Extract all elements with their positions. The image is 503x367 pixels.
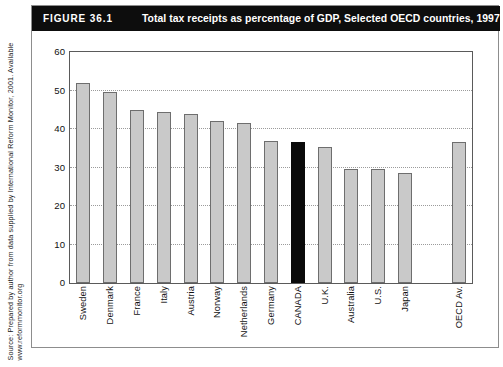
x-axis-tick: France: [131, 286, 143, 346]
x-axis-tick: Australia: [345, 286, 357, 346]
x-axis-tick: Japan: [399, 286, 411, 346]
bar-canada: [291, 142, 305, 283]
figure-container: Source: Prepared by author from data sup…: [0, 0, 503, 367]
bar-oecd-av: [452, 142, 466, 283]
x-axis-tick: Denmark: [104, 286, 116, 346]
y-axis-tick-label: 60: [35, 46, 65, 57]
y-axis-tick-label: 30: [35, 161, 65, 172]
x-axis-tick-label: Austria: [186, 286, 196, 316]
x-axis-tick-label: Italy: [159, 286, 169, 304]
bar-australia: [344, 169, 358, 283]
x-axis-tick: U.K.: [319, 286, 331, 346]
x-axis-tick-label: France: [132, 286, 142, 316]
x-axis-tick-label: Germany: [266, 286, 276, 325]
x-axis-tick: Austria: [185, 286, 197, 346]
bar-netherlands: [237, 123, 251, 283]
figure-title-bar: FIGURE 36.1 Total tax receipts as percen…: [32, 6, 500, 31]
x-axis-tick-label: Japan: [400, 286, 410, 312]
bar-france: [130, 110, 144, 283]
x-axis-tick-label: U.K.: [320, 286, 330, 304]
x-axis-tick: U.S.: [372, 286, 384, 346]
x-axis-tick: OECD Av.: [453, 286, 465, 346]
y-axis-tick-label: 10: [35, 238, 65, 249]
x-axis: SwedenDenmarkFranceItalyAustriaNorwayNet…: [70, 286, 472, 348]
y-axis-tick-label: 0: [35, 277, 65, 288]
x-axis-tick: Netherlands: [238, 286, 250, 346]
bar-u-s: [371, 169, 385, 283]
y-axis-tick-label: 50: [35, 84, 65, 95]
bar-italy: [157, 112, 171, 283]
x-axis-tick-label: Australia: [346, 286, 356, 323]
x-axis-tick-label: Netherlands: [239, 286, 249, 337]
x-axis-tick-label: CANADA: [293, 286, 303, 325]
bar-denmark: [103, 92, 117, 283]
y-axis-tick-label: 20: [35, 200, 65, 211]
bar-germany: [264, 141, 278, 283]
x-axis-tick: Norway: [211, 286, 223, 346]
figure-number: FIGURE 36.1: [32, 13, 113, 24]
x-axis-tick-label: U.S.: [373, 286, 383, 304]
source-note: Source: Prepared by author from data sup…: [0, 0, 26, 360]
x-axis-tick-label: Norway: [212, 286, 222, 318]
bar-sweden: [76, 83, 90, 283]
bar-japan: [398, 173, 412, 283]
x-axis-tick: CANADA: [292, 286, 304, 346]
x-axis-tick: Sweden: [77, 286, 89, 346]
source-note-text: Source: Prepared by author from data sup…: [6, 10, 25, 360]
figure-title: Total tax receipts as percentage of GDP,…: [113, 13, 500, 24]
chart-area: 0102030405060 SwedenDenmarkFranceItalyAu…: [32, 31, 500, 348]
bar-norway: [210, 121, 224, 283]
x-axis-tick-label: Denmark: [105, 286, 115, 324]
y-axis: 0102030405060: [32, 51, 65, 284]
bar-austria: [184, 114, 198, 283]
bars-layer: [70, 52, 472, 283]
bar-u-k: [318, 147, 332, 283]
figure-box: FIGURE 36.1 Total tax receipts as percen…: [31, 5, 499, 348]
x-axis-tick-label: Sweden: [78, 286, 88, 320]
x-axis-tick: Italy: [158, 286, 170, 346]
y-axis-tick-label: 40: [35, 123, 65, 134]
x-axis-tick-label: OECD Av.: [454, 286, 464, 328]
x-axis-tick: Germany: [265, 286, 277, 346]
